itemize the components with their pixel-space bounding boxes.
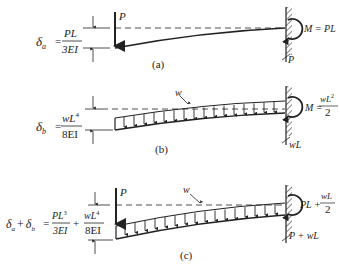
equals-sign: =	[55, 35, 61, 47]
reaction-label: P + wL	[288, 230, 319, 241]
term2-numerator: wL4	[84, 210, 99, 221]
panel-a: δa = PL 3EI P M = PL P (a)	[36, 7, 336, 71]
moment-denominator: 2	[325, 203, 331, 215]
fixed-wall-hatch	[286, 185, 292, 235]
load-w-label: w	[175, 87, 182, 98]
deflection-b-denominator: 8EI	[62, 128, 78, 140]
cantilever-superposition-diagram: δa = PL 3EI P M = PL P (a) δb = wL4 8EI	[0, 0, 340, 273]
load-w-label: w	[183, 184, 190, 195]
caption-b: (b)	[155, 143, 168, 156]
deflected-beam	[115, 28, 285, 48]
reaction-label: P	[287, 54, 294, 65]
term2-denominator: 8EI	[85, 224, 101, 236]
load-p-label: P	[118, 10, 126, 22]
moment-label: M = PL	[303, 23, 336, 34]
deflected-beam	[115, 113, 285, 130]
delta-a-symbol: δa	[36, 34, 46, 51]
equals-sign: =	[55, 120, 61, 132]
distributed-load-top	[116, 203, 285, 226]
moment-numerator: wL2	[320, 93, 334, 104]
term1-numerator: PL3	[51, 210, 67, 221]
reaction-label: wL	[289, 139, 302, 150]
deflection-b-numerator: wL4	[62, 111, 79, 124]
panel-b: δb = wL4 8EI	[36, 86, 338, 156]
deflection-a-denominator: 3EI	[61, 43, 79, 55]
delta-sum-lhs: δa+δb	[6, 217, 35, 233]
distributed-load-top	[115, 101, 285, 118]
moment-numerator: wL	[321, 191, 332, 201]
moment-denominator: 2	[325, 106, 331, 118]
term1-denominator: 3EI	[52, 225, 68, 236]
plus-sign: +	[73, 217, 79, 229]
fixed-wall-hatch	[286, 7, 292, 55]
leader-arrow-icon	[190, 194, 200, 203]
delta-b-symbol: δb	[36, 119, 46, 136]
equals-sign: =	[43, 217, 49, 229]
caption-c: (c)	[180, 249, 193, 262]
deflected-beam	[116, 215, 285, 239]
deflection-a-numerator: PL	[63, 27, 77, 39]
moment-label-prefix: PL +	[299, 199, 321, 210]
panel-c: δa+δb = PL3 3EI + wL4 8EI	[6, 184, 335, 262]
caption-a: (a)	[152, 58, 165, 71]
leader-arrow-icon	[180, 96, 188, 104]
fixed-wall-hatch	[286, 86, 292, 136]
load-p-label: P	[119, 186, 127, 198]
